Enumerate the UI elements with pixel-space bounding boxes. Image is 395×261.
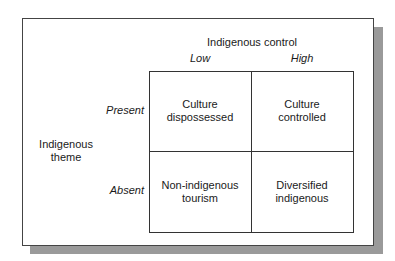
cell-text: Non-indigenous [161,179,238,192]
cell-text: indigenous [275,192,328,205]
cell-diversified-indigenous: Diversifiedindigenous [251,152,353,232]
row-level-present: Present [90,104,144,117]
cell-text: Culture [278,98,326,111]
cell-text: Diversified [275,179,328,192]
row-level-absent: Absent [90,184,144,197]
column-level-low: Low [170,52,230,65]
cell-text: Culture [167,98,234,111]
row-axis-title-line2: theme [36,151,96,164]
cell-text: controlled [278,111,326,124]
column-level-high: High [272,52,332,65]
cell-culture-controlled: Culturecontrolled [251,71,353,151]
row-axis-title-line1: Indigenous [36,138,96,151]
cell-text: tourism [161,192,238,205]
cell-text: dispossessed [167,111,234,124]
cell-non-indigenous-tourism: Non-indigenoustourism [149,152,251,232]
column-axis-title: Indigenous control [180,36,324,49]
cell-culture-dispossessed: Culturedispossessed [149,71,251,151]
